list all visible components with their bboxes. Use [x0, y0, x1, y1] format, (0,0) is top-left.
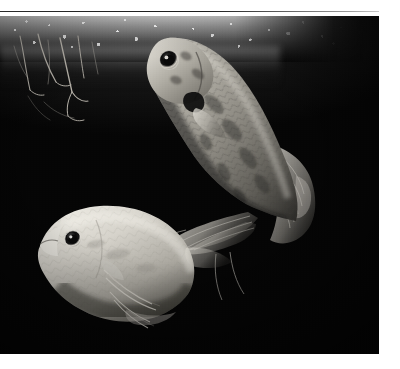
- aquarium-photograph: [0, 16, 379, 354]
- vignette-overlay: [0, 16, 379, 354]
- page-header: rtar: [0, 0, 400, 13]
- header-running-text: rtar: [379, 0, 394, 1]
- header-divider-rule: [0, 11, 379, 12]
